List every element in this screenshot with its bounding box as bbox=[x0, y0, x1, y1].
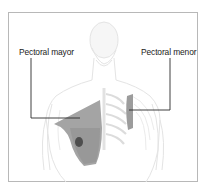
pectoral-major-muscle bbox=[54, 100, 102, 166]
pectoral-minor-muscle bbox=[126, 94, 133, 130]
anatomy-figure bbox=[0, 0, 210, 192]
ribcage bbox=[104, 88, 126, 150]
label-pectoral-mayor: Pectoral mayor bbox=[19, 47, 74, 57]
label-pectoral-menor: Pectoral menor bbox=[141, 47, 196, 57]
leader-line-pectoral-menor bbox=[129, 58, 170, 110]
leader-line-pectoral-mayor bbox=[31, 58, 80, 118]
